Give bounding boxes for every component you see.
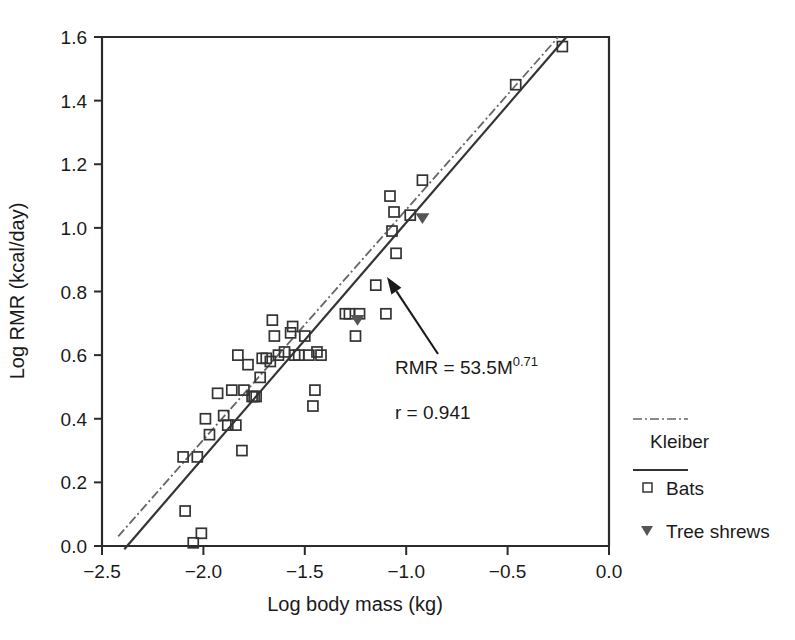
legend-label-tree-shrews: Tree shrews	[666, 521, 770, 542]
y-tick-label: 1.6	[61, 27, 87, 48]
scatter-plot-figure: 0.00.20.40.60.81.01.21.41.6 −2.5−2.0−1.5…	[0, 0, 795, 640]
correlation-annotation: r = 0.941	[395, 402, 471, 423]
equation-exponent: 0.71	[513, 354, 538, 369]
y-tick-label: 0.2	[61, 472, 87, 493]
y-tick-label: 1.0	[61, 218, 87, 239]
y-axis-title: Log RMR (kcal/day)	[6, 203, 28, 380]
figure-container: 0.00.20.40.60.81.01.21.41.6 −2.5−2.0−1.5…	[0, 0, 795, 640]
x-tick-label: 0.0	[596, 561, 622, 582]
legend-label-kleiber: Kleiber	[650, 431, 710, 452]
y-tick-label: 0.8	[61, 282, 87, 303]
y-tick-label: 0.6	[61, 345, 87, 366]
y-tick-label: 0.4	[61, 409, 88, 430]
y-tick-label: 1.2	[61, 154, 87, 175]
equation-main-text: RMR = 53.5M	[395, 357, 513, 378]
x-tick-label: −2.0	[185, 561, 223, 582]
figure-background	[0, 0, 795, 640]
legend-label-bats: Bats	[666, 478, 704, 499]
x-tick-label: −0.5	[489, 561, 527, 582]
x-tick-label: −1.0	[387, 561, 425, 582]
x-tick-label: −2.5	[83, 561, 121, 582]
y-tick-label: 1.4	[61, 91, 88, 112]
y-tick-label: 0.0	[61, 536, 87, 557]
x-tick-label: −1.5	[286, 561, 324, 582]
x-axis-title: Log body mass (kg)	[267, 593, 443, 615]
